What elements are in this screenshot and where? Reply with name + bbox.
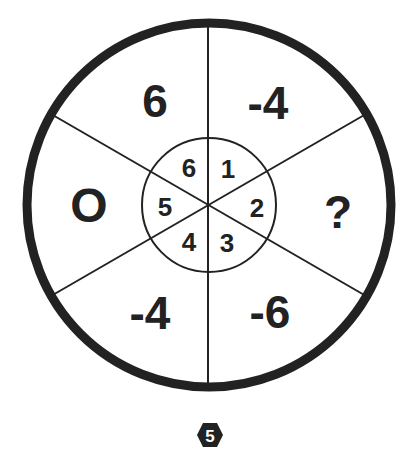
- inner-value-4: 4: [182, 227, 197, 257]
- badge-label: 5: [205, 427, 214, 446]
- outer-value-right-unknown: ?: [324, 186, 352, 238]
- outer-value-bottom-left: -4: [130, 287, 171, 339]
- outer-value-top-left: 6: [142, 75, 168, 127]
- inner-value-2: 2: [250, 193, 264, 223]
- puzzle-diagram: 6 -4 ? -6 -4 O 1 2 3 4 5 6 5: [0, 0, 415, 449]
- outer-value-bottom-right: -6: [250, 286, 291, 338]
- inner-value-5: 5: [158, 192, 172, 222]
- inner-value-1: 1: [221, 154, 235, 184]
- inner-value-6: 6: [182, 153, 196, 183]
- outer-value-left: O: [70, 179, 107, 232]
- inner-value-3: 3: [220, 228, 234, 258]
- outer-value-top-right: -4: [248, 77, 289, 129]
- puzzle-number-badge: 5: [197, 423, 223, 447]
